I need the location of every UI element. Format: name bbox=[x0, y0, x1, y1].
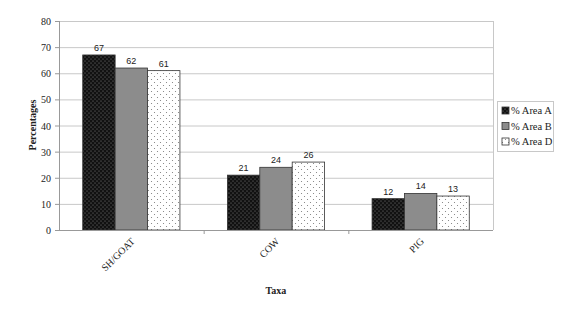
legend-swatch bbox=[502, 138, 509, 145]
data-label: 21 bbox=[239, 163, 249, 173]
data-label: 62 bbox=[126, 56, 136, 66]
y-tick-label: 50 bbox=[41, 94, 51, 105]
y-tick-label: 30 bbox=[41, 147, 51, 158]
y-axis: 01020304050607080 bbox=[41, 16, 60, 236]
bar-chart: 01020304050607080 676261212426121413 SH/… bbox=[0, 0, 580, 312]
bar bbox=[437, 196, 469, 230]
data-label: 24 bbox=[271, 155, 281, 165]
data-label: 67 bbox=[94, 43, 104, 53]
bar bbox=[115, 68, 147, 230]
data-label: 12 bbox=[383, 187, 393, 197]
bar bbox=[292, 162, 324, 230]
y-tick-label: 0 bbox=[46, 225, 51, 236]
data-label: 14 bbox=[416, 181, 426, 191]
data-label: 26 bbox=[303, 150, 313, 160]
bar bbox=[404, 193, 436, 230]
x-axis: SH/GOATCOWPIG bbox=[59, 230, 493, 273]
bar bbox=[260, 167, 292, 230]
legend-label: % Area B bbox=[511, 121, 552, 132]
y-tick-label: 40 bbox=[41, 121, 51, 132]
bar bbox=[227, 175, 259, 230]
data-label: 61 bbox=[159, 59, 169, 69]
y-tick-label: 70 bbox=[41, 42, 51, 53]
bar bbox=[148, 71, 180, 230]
legend-swatch bbox=[502, 123, 509, 130]
x-tick-label: PIG bbox=[407, 236, 426, 255]
legend-label: % Area A bbox=[511, 105, 552, 116]
y-tick-label: 10 bbox=[41, 199, 51, 210]
legend-swatch bbox=[502, 107, 509, 114]
legend-label: % Area D bbox=[511, 136, 553, 147]
bars: 676261212426121413 bbox=[83, 43, 470, 230]
y-tick-label: 60 bbox=[41, 68, 51, 79]
legend: % Area A% Area B% Area D bbox=[498, 102, 554, 152]
bar bbox=[83, 55, 115, 230]
y-tick-label: 80 bbox=[41, 16, 51, 27]
y-axis-title: Percentages bbox=[27, 99, 38, 150]
x-axis-title: Taxa bbox=[266, 285, 287, 296]
data-label: 13 bbox=[448, 184, 458, 194]
x-tick-label: SH/GOAT bbox=[99, 236, 137, 274]
x-tick-label: COW bbox=[257, 235, 282, 260]
y-tick-label: 20 bbox=[41, 173, 51, 184]
bar bbox=[372, 199, 404, 230]
